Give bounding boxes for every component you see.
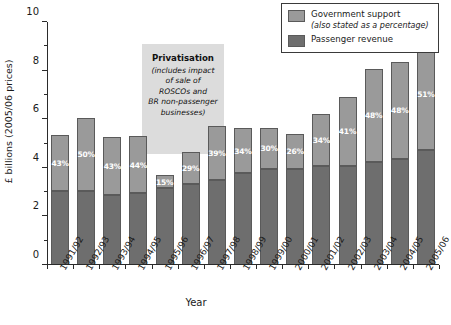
bar-percentage-label: 48% — [365, 111, 382, 120]
y-axis-label: 4 — [33, 153, 39, 163]
bar-segment-government-support: 34% — [234, 128, 252, 173]
bar-segment-government-support: 48% — [391, 62, 409, 159]
bar-segment-government-support: 26% — [286, 134, 304, 169]
chart-legend: Government support (also stated as a per… — [281, 3, 439, 53]
bar-percentage-label: 34% — [313, 136, 330, 145]
bar-percentage-label: 29% — [182, 164, 199, 173]
x-axis-title: Year — [0, 297, 392, 308]
y-axis-tick — [42, 70, 47, 71]
bar-percentage-label: 50% — [78, 150, 95, 159]
legend-item-passenger-revenue: Passenger revenue — [288, 34, 432, 47]
bar-percentage-label: 26% — [287, 147, 304, 156]
y-axis-minor-tick — [44, 143, 47, 144]
y-axis-title-text: £ billions (2005/06 prices) — [4, 60, 15, 184]
bar-segment-government-support: 30% — [260, 128, 278, 169]
bar-segment-government-support: 48% — [365, 69, 383, 162]
bar-percentage-label: 43% — [51, 158, 68, 167]
bar-percentage-label: 15% — [156, 177, 173, 186]
bar-percentage-label: 43% — [104, 161, 121, 170]
bar-segment-government-support: 29% — [182, 152, 200, 184]
legend-label-government-support: Government support (also stated as a per… — [311, 9, 429, 31]
bar-segment-government-support: 50% — [77, 118, 95, 191]
y-axis-tick — [42, 118, 47, 119]
y-axis-tick — [42, 167, 47, 168]
bar-segment-government-support: 15% — [156, 175, 174, 188]
bar-percentage-label: 30% — [260, 144, 277, 153]
legend-swatch-government-support — [288, 10, 305, 22]
bar-segment-passenger-revenue — [339, 166, 357, 265]
bar-percentage-label: 44% — [130, 160, 147, 169]
y-axis-line — [47, 22, 48, 265]
bars-layer: 43%50%43%44%15%29%39%34%30%26%34%41%48%4… — [47, 22, 439, 265]
y-axis-label: 6 — [33, 104, 39, 114]
y-axis-minor-tick — [44, 240, 47, 241]
bar-segment-government-support: 43% — [103, 137, 121, 195]
x-axis-labels: 1991/921992/931993/941994/951995/961996/… — [47, 267, 439, 323]
legend-label-passenger-revenue: Passenger revenue — [311, 34, 393, 45]
legend-item-government-support: Government support (also stated as a per… — [288, 9, 432, 31]
y-axis-minor-tick — [44, 45, 47, 46]
legend-label-main-1: Passenger revenue — [311, 34, 393, 44]
plot-area: Privatisation (includes impact of sale o… — [47, 22, 439, 265]
bar-group: 48% — [391, 62, 409, 265]
bar-segment-government-support: 41% — [339, 97, 357, 166]
y-axis-title: £ billions (2005/06 prices) — [2, 0, 16, 243]
bar-segment-government-support: 51% — [417, 38, 435, 150]
bar-group: 51% — [417, 38, 435, 265]
y-axis-label: 8 — [33, 56, 39, 66]
bar-segment-government-support: 39% — [208, 126, 226, 180]
bar-percentage-label: 48% — [391, 106, 408, 115]
bar-segment-government-support: 43% — [51, 135, 69, 191]
x-axis-tick — [439, 265, 440, 269]
y-axis-label: 2 — [33, 201, 39, 211]
legend-swatch-passenger-revenue — [288, 35, 305, 47]
y-axis-tick — [42, 215, 47, 216]
bar-segment-government-support: 44% — [129, 136, 147, 193]
legend-label-sub-0: (also stated as a percentage) — [311, 20, 429, 31]
y-axis-label: 10 — [26, 7, 39, 17]
bar-percentage-label: 34% — [234, 146, 251, 155]
bar-percentage-label: 51% — [417, 90, 434, 99]
y-axis-label: 0 — [33, 250, 39, 260]
bar-segment-government-support: 34% — [312, 114, 330, 166]
legend-label-main-0: Government support — [311, 9, 400, 19]
y-axis-minor-tick — [44, 94, 47, 95]
y-axis-tick — [42, 21, 47, 22]
bar-percentage-label: 41% — [339, 127, 356, 136]
bar-percentage-label: 39% — [208, 148, 225, 157]
y-axis-minor-tick — [44, 191, 47, 192]
bar-group: 43% — [51, 135, 69, 265]
